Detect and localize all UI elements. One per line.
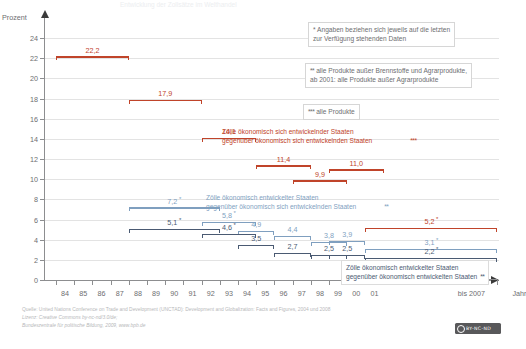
segment-end-tick <box>219 229 220 233</box>
cc-circle-icon <box>457 325 465 333</box>
y-axis-tick <box>40 58 45 59</box>
segment-end-tick <box>496 249 497 253</box>
segment-end-tick <box>346 180 347 184</box>
segment-end-tick <box>273 245 274 249</box>
segment-end-tick <box>311 242 312 246</box>
segment-end-tick <box>293 180 294 184</box>
data-segment <box>238 245 274 247</box>
series-label-marker: ** <box>480 273 484 280</box>
note-marker: ** <box>310 67 314 74</box>
value-asterisk: * <box>434 246 438 252</box>
x-axis-tick-label: 86 <box>98 289 106 298</box>
data-segment <box>274 253 310 255</box>
y-axis-tick-label: 14 <box>30 134 38 143</box>
x-axis-tick-label: 93 <box>225 289 233 298</box>
segment-end-tick <box>496 228 497 232</box>
x-axis-range-label: bis 2007 <box>458 289 485 298</box>
x-axis-tick-label: 95 <box>261 289 269 298</box>
segment-end-tick <box>383 169 384 173</box>
y-axis-tick-label: 10 <box>30 175 38 184</box>
data-value-label: 4,4 <box>288 225 298 234</box>
x-axis-tick-label: 00 <box>352 289 360 298</box>
segment-end-tick <box>496 258 497 262</box>
x-axis-tick <box>165 280 166 285</box>
note-line: ab 2001: alle Produkte außer Agrarproduk… <box>310 76 438 83</box>
data-value-label: 9,9 <box>315 170 325 179</box>
note-line: zur Verfügung stehenden Daten <box>313 35 406 42</box>
series-label-line: gegenüber ökonomisch sich entwickelnden … <box>206 203 356 210</box>
x-axis-tick <box>147 280 148 285</box>
series-label-line: gegenüber ökonomisch sich entwickelnden … <box>222 137 372 144</box>
y-axis-tick <box>40 179 45 180</box>
y-axis-tick-label: 6 <box>34 215 38 224</box>
data-value-label: 17,9 <box>158 89 172 98</box>
y-axis-tick-label: 2 <box>34 255 38 264</box>
note-line: alle Produkte außer Brennstoffe und Agra… <box>316 67 467 74</box>
segment-end-tick <box>238 245 239 249</box>
segment-end-tick <box>365 228 366 232</box>
y-axis-tick <box>40 260 45 261</box>
segment-end-tick <box>202 222 203 226</box>
value-asterisk: * <box>177 196 181 202</box>
segment-end-tick <box>364 241 365 245</box>
footer-line-1: Quelle: United Nations Conference on Tra… <box>22 307 330 312</box>
x-axis-tick <box>220 280 221 285</box>
x-axis-tick <box>92 280 93 285</box>
y-axis-arrow-icon <box>41 10 49 18</box>
chart-title: Entwicklung der Zollsätze im Welthandel <box>120 1 237 8</box>
y-axis-title: Prozent <box>2 13 27 22</box>
data-segment <box>365 228 497 230</box>
x-axis-tick <box>293 280 294 285</box>
x-axis-tick-label: 85 <box>79 289 87 298</box>
series-label-navy: Zölle ökonomisch entwickelter Staaten ge… <box>341 260 489 285</box>
y-axis-tick-label: 8 <box>34 195 38 204</box>
data-value-label: 7,2 * <box>167 196 181 206</box>
x-axis-tick-label: 98 <box>316 289 324 298</box>
note-marker: *** <box>308 108 314 115</box>
x-axis-tick-label: 90 <box>170 289 178 298</box>
segment-end-tick <box>129 229 130 233</box>
data-segment <box>129 229 220 231</box>
data-segment <box>274 236 310 238</box>
y-axis-tick <box>40 240 45 241</box>
value-asterisk: * <box>434 216 438 222</box>
gridline <box>44 159 499 160</box>
segment-end-tick <box>129 207 130 211</box>
x-axis-tick-label: 88 <box>134 289 142 298</box>
data-segment <box>329 241 365 243</box>
data-value-label: 3,8 <box>324 231 334 240</box>
y-axis-tick <box>40 119 45 120</box>
segment-end-tick <box>311 255 312 259</box>
segment-end-tick <box>256 165 257 169</box>
x-axis-tick-label: 01 <box>371 289 379 298</box>
segment-end-tick <box>310 165 311 169</box>
y-axis-tick-label: 18 <box>30 94 38 103</box>
x-axis-tick <box>238 280 239 285</box>
segment-end-tick <box>310 236 311 240</box>
data-value-label: 4,9 <box>251 220 261 229</box>
x-axis-tick <box>256 280 257 285</box>
y-axis-tick-label: 4 <box>34 235 38 244</box>
segment-end-tick <box>56 56 57 60</box>
data-value-label: 2,7 <box>288 242 298 251</box>
y-axis-tick <box>40 159 45 160</box>
data-value-label: 4,6 * <box>222 222 236 232</box>
gridline <box>44 119 499 120</box>
segment-end-tick <box>128 56 129 60</box>
series-label-line: gegenüber ökonomisch entwickelten Staate… <box>346 273 477 280</box>
gridline <box>44 58 499 59</box>
x-axis-tick-label: 94 <box>243 289 251 298</box>
segment-end-tick <box>273 231 274 235</box>
data-segment <box>329 255 365 257</box>
x-axis-tick <box>274 280 275 285</box>
y-axis-tick <box>40 139 45 140</box>
gridline <box>44 99 499 100</box>
y-axis-tick-label: 0 <box>34 276 38 285</box>
footer-line-2: Lizenz: Creative Commons by-nc-nd/3.0/de… <box>22 315 117 320</box>
y-axis-tick <box>40 99 45 100</box>
data-value-label: 11,0 <box>350 159 363 168</box>
y-axis-tick-label: 12 <box>30 155 38 164</box>
x-axis-tick <box>202 280 203 285</box>
x-axis-tick-label: 96 <box>280 289 288 298</box>
x-axis-tick <box>497 280 498 285</box>
